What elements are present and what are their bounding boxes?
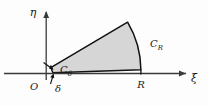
outer-radius-label: R (136, 79, 145, 90)
eta-axis-label: η (30, 6, 37, 19)
inner-arc-label-sub: δ (68, 70, 72, 78)
outer-arc-label: CR (150, 38, 164, 52)
eta-axis-arrowhead (43, 11, 49, 18)
xi-axis-label: ξ (191, 72, 198, 85)
xi-axis-arrowhead (179, 71, 186, 77)
contour-diagram-figure: η ξ O δ R Cδ CR (0, 0, 208, 106)
origin-label: O (30, 81, 38, 92)
outer-arc-label-sub: R (157, 44, 164, 52)
inner-radius-label: δ (55, 83, 61, 94)
diagram-canvas: η ξ O δ R Cδ CR (0, 0, 208, 106)
delta-pointer-head (50, 74, 54, 79)
